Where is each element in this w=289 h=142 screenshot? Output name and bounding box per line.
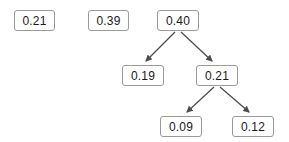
edge-arrow: [181, 32, 212, 61]
tree-diagram: 0.210.390.400.190.210.090.12: [0, 0, 289, 142]
tree-node-label: 0.21: [205, 70, 229, 82]
tree-node[interactable]: 0.12: [232, 116, 274, 137]
tree-node-label: 0.09: [169, 121, 193, 133]
tree-node-label: 0.40: [166, 15, 190, 27]
tree-node-label: 0.12: [241, 121, 265, 133]
tree-node-label: 0.39: [96, 15, 120, 27]
tree-node[interactable]: 0.21: [14, 10, 55, 31]
edge-arrow: [220, 87, 249, 112]
edge-arrow: [187, 87, 214, 112]
tree-node[interactable]: 0.19: [122, 65, 164, 86]
tree-node[interactable]: 0.21: [196, 65, 238, 86]
edge-arrow: [146, 32, 175, 61]
tree-node[interactable]: 0.39: [88, 10, 129, 31]
tree-node[interactable]: 0.09: [160, 116, 202, 137]
tree-node[interactable]: 0.40: [157, 10, 199, 31]
tree-node-label: 0.21: [22, 15, 46, 27]
tree-node-label: 0.19: [131, 70, 155, 82]
